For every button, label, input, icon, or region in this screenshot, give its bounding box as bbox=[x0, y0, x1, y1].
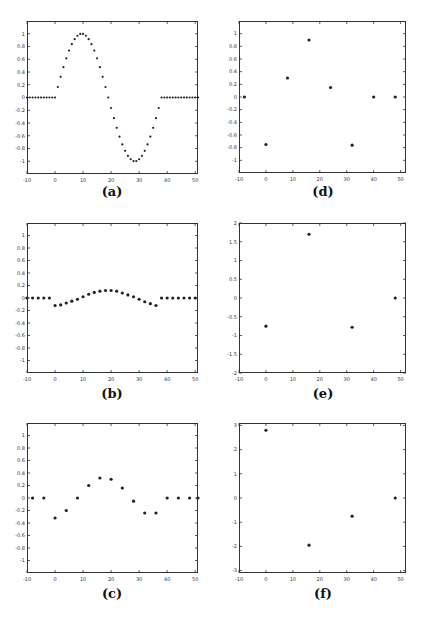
data-point bbox=[166, 96, 168, 98]
y-tick-label: 0.6 bbox=[17, 457, 25, 463]
data-point bbox=[351, 326, 354, 329]
x-tick-label: 30 bbox=[344, 176, 350, 182]
data-point bbox=[194, 296, 197, 299]
data-point bbox=[31, 496, 34, 499]
x-tick-label: -10 bbox=[235, 576, 243, 582]
y-tick-label: 1 bbox=[22, 432, 25, 438]
y-tick-label: 0.2 bbox=[17, 282, 25, 288]
data-point bbox=[40, 96, 42, 98]
caption-f: (f) bbox=[293, 586, 353, 601]
data-point bbox=[144, 150, 146, 152]
y-tick-label: -1.5 bbox=[227, 351, 237, 357]
data-point bbox=[130, 158, 132, 160]
data-point bbox=[93, 291, 96, 294]
data-point bbox=[177, 496, 180, 499]
data-point bbox=[154, 511, 157, 514]
y-tick-label: 0.6 bbox=[17, 56, 25, 62]
y-tick-label: 1 bbox=[234, 471, 237, 477]
data-point bbox=[394, 496, 397, 499]
x-tick-label: -10 bbox=[23, 576, 31, 582]
y-tick-label: -0.6 bbox=[15, 133, 25, 139]
y-tick-label: 0.8 bbox=[229, 43, 237, 49]
y-tick-label: -0.6 bbox=[15, 532, 25, 538]
y-tick-label: 1 bbox=[22, 232, 25, 238]
x-tick-label: 0 bbox=[264, 176, 267, 182]
y-tick-label: 0.4 bbox=[17, 270, 25, 276]
data-point bbox=[188, 296, 191, 299]
y-tick-label: -1 bbox=[20, 357, 25, 363]
data-point bbox=[104, 289, 107, 292]
y-tick-label: -1 bbox=[20, 158, 25, 164]
data-point bbox=[81, 295, 84, 298]
x-tick-label: 0 bbox=[53, 576, 56, 582]
x-tick-label: 0 bbox=[53, 376, 56, 382]
data-point bbox=[121, 291, 124, 294]
data-point bbox=[163, 96, 165, 98]
y-tick-label: 0.4 bbox=[17, 470, 25, 476]
data-point bbox=[74, 38, 76, 40]
scatter-plot-b: -1001020304050-1-0.8-0.6-0.4-0.200.20.40… bbox=[27, 223, 198, 373]
data-point bbox=[394, 95, 397, 98]
x-tick-label: 40 bbox=[164, 177, 170, 183]
y-tick-label: -0.8 bbox=[15, 145, 25, 151]
data-point bbox=[372, 95, 375, 98]
data-point bbox=[34, 96, 36, 98]
y-tick-label: -1 bbox=[232, 157, 237, 163]
y-tick-label: -0.2 bbox=[15, 307, 25, 313]
x-tick-label: 40 bbox=[370, 376, 376, 382]
y-tick-label: -0.2 bbox=[227, 106, 237, 112]
plot-panel-a: -1001020304050-1-0.8-0.6-0.4-0.200.20.40… bbox=[27, 21, 198, 174]
x-tick-label: 10 bbox=[80, 177, 86, 183]
data-point bbox=[196, 496, 199, 499]
scatter-plot-a: -1001020304050-1-0.8-0.6-0.4-0.200.20.40… bbox=[27, 21, 198, 174]
data-point bbox=[186, 96, 188, 98]
x-tick-label: 20 bbox=[108, 576, 114, 582]
data-point bbox=[160, 96, 162, 98]
y-tick-label: 0 bbox=[234, 495, 237, 501]
y-tick-label: 1 bbox=[234, 257, 237, 263]
data-point bbox=[188, 96, 190, 98]
plot-panel-c: -1001020304050-1-0.8-0.6-0.4-0.200.20.40… bbox=[27, 423, 198, 573]
y-tick-label: 1.5 bbox=[229, 239, 237, 245]
y-tick-label: 0.8 bbox=[17, 43, 25, 49]
data-point bbox=[166, 296, 169, 299]
scatter-plot-e: -1001020304050-2-1.5-1-0.500.511.52 bbox=[239, 223, 406, 373]
y-tick-label: 0.6 bbox=[17, 257, 25, 263]
x-tick-label: 40 bbox=[370, 176, 376, 182]
x-tick-label: 0 bbox=[264, 576, 267, 582]
data-point bbox=[107, 96, 109, 98]
x-tick-label: 10 bbox=[80, 376, 86, 382]
data-point bbox=[138, 298, 141, 301]
data-point bbox=[88, 38, 90, 40]
data-point bbox=[351, 515, 354, 518]
data-point bbox=[146, 143, 148, 145]
y-tick-label: -0.2 bbox=[15, 507, 25, 513]
data-point bbox=[60, 76, 62, 78]
data-point bbox=[54, 96, 56, 98]
data-point bbox=[62, 66, 64, 68]
y-tick-label: 0.4 bbox=[229, 68, 237, 74]
y-tick-label: 0 bbox=[234, 295, 237, 301]
data-point bbox=[188, 496, 191, 499]
y-tick-label: 3 bbox=[234, 422, 237, 428]
data-point bbox=[197, 96, 199, 98]
y-tick-label: -0.6 bbox=[15, 332, 25, 338]
scatter-plot-f: -1001020304050-3-2-10123 bbox=[239, 423, 406, 573]
data-point bbox=[177, 96, 179, 98]
y-tick-label: -0.4 bbox=[15, 320, 25, 326]
data-point bbox=[53, 304, 56, 307]
y-tick-label: -0.2 bbox=[15, 107, 25, 113]
data-point bbox=[132, 160, 134, 162]
data-point bbox=[121, 486, 124, 489]
y-tick-label: -1 bbox=[20, 557, 25, 563]
x-tick-label: 0 bbox=[53, 177, 56, 183]
data-point bbox=[172, 96, 174, 98]
x-tick-label: 10 bbox=[290, 176, 296, 182]
data-point bbox=[51, 96, 53, 98]
data-point bbox=[169, 96, 171, 98]
x-tick-label: 40 bbox=[370, 576, 376, 582]
data-point bbox=[116, 127, 118, 129]
caption-c: (c) bbox=[82, 586, 142, 601]
data-point bbox=[110, 107, 112, 109]
data-point bbox=[109, 289, 112, 292]
